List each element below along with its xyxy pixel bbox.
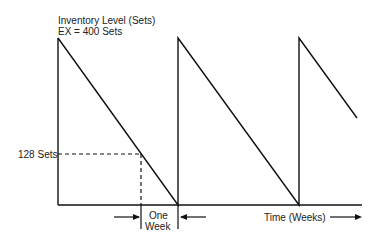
level-128-label: 128 Sets (18, 149, 57, 160)
time-arrowhead (355, 214, 362, 220)
x-axis-title: Time (Weeks) (264, 212, 326, 223)
y-axis-subtitle: EX = 400 Sets (58, 26, 122, 37)
one-week-label-1: One (149, 210, 168, 221)
y-axis-title: Inventory Level (Sets) (58, 15, 155, 26)
week-arrowhead-left (133, 214, 140, 220)
week-arrowhead-right (180, 214, 187, 220)
one-week-label-2: Week (145, 221, 170, 232)
inventory-sawtooth-line (58, 38, 357, 205)
